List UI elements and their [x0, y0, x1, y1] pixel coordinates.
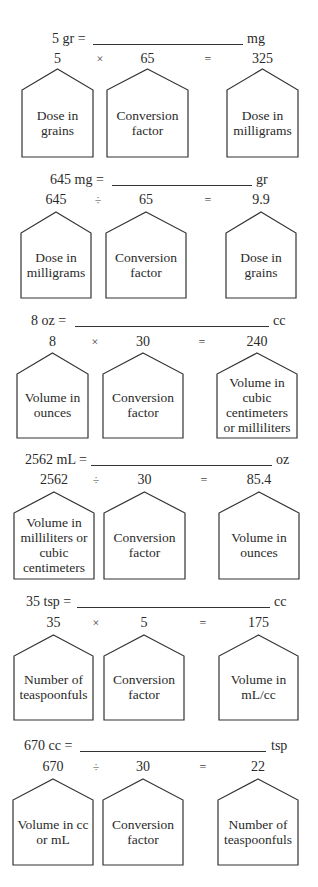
operand-2: 65: [116, 192, 176, 208]
operand-1: 645: [26, 192, 86, 208]
operand-2: 30: [115, 472, 175, 488]
equation-unit: mg: [247, 31, 265, 47]
box-label: Volume in ounces: [19, 376, 86, 434]
operand-2: 30: [113, 759, 173, 775]
equation-unit: cc: [273, 313, 285, 329]
box-label: Volume in cc or mL: [15, 802, 91, 861]
box-label: Conversion factor: [105, 376, 181, 434]
operand-1: 5: [28, 51, 88, 67]
box-label: Number of teaspoonfuls: [220, 802, 296, 861]
result-value: 325: [233, 51, 293, 67]
operand-2: 5: [114, 615, 174, 631]
operator-sign: ÷: [88, 192, 108, 208]
operator-sign: ×: [90, 51, 110, 67]
operator-sign: ×: [86, 615, 106, 631]
box-label: Number of teaspoonfuls: [16, 658, 91, 716]
result-value: 240: [227, 334, 287, 350]
equation-prefix: 35 tsp =: [26, 594, 71, 610]
operand-1: 670: [23, 759, 83, 775]
box-label: Volume in ounces: [221, 515, 297, 575]
equals-sign: =: [194, 472, 214, 488]
equation-unit: oz: [276, 452, 289, 468]
equation-unit: gr: [256, 172, 268, 188]
equation-prefix: 8 oz =: [31, 313, 66, 329]
equation-unit: tsp: [271, 738, 287, 754]
equation-prefix: 2562 mL =: [25, 452, 87, 468]
result-value: 175: [229, 615, 289, 631]
box-label: Dose in milligrams: [229, 92, 296, 153]
answer-blank-line[interactable]: [80, 751, 266, 752]
operand-1: 2562: [24, 472, 84, 488]
answer-blank-line[interactable]: [112, 185, 252, 186]
equation-unit: cc: [274, 594, 286, 610]
equals-sign: =: [192, 334, 212, 350]
box-label: Dose in grains: [24, 92, 91, 153]
operand-2: 65: [118, 51, 178, 67]
box-label: Dose in milligrams: [23, 235, 89, 294]
answer-blank-line[interactable]: [93, 44, 243, 45]
operand-2: 30: [113, 334, 173, 350]
answer-blank-line[interactable]: [77, 607, 270, 608]
equals-sign: =: [193, 759, 213, 775]
box-label: Dose in grains: [228, 235, 294, 294]
operand-1: 8: [23, 334, 83, 350]
box-label: Conversion factor: [106, 515, 183, 575]
box-label: Conversion factor: [109, 92, 186, 153]
box-label: Conversion factor: [106, 658, 182, 716]
result-value: 9.9: [231, 192, 291, 208]
box-label: Volume in mL/cc: [221, 658, 296, 716]
box-label: Conversion factor: [108, 235, 184, 294]
operand-1: 35: [24, 615, 84, 631]
box-label: Volume in cubic centimeters or millilite…: [219, 376, 295, 434]
equals-sign: =: [193, 615, 213, 631]
equation-prefix: 645 mg =: [50, 172, 104, 188]
equals-sign: =: [198, 192, 218, 208]
answer-blank-line[interactable]: [91, 465, 272, 466]
box-label: Volume in milliliters or cubic centimete…: [16, 515, 92, 575]
operator-sign: ÷: [86, 759, 106, 775]
equals-sign: =: [198, 51, 218, 67]
equation-prefix: 670 cc =: [24, 738, 72, 754]
answer-blank-line[interactable]: [75, 326, 269, 327]
equation-prefix: 5 gr =: [52, 31, 86, 47]
result-value: 22: [228, 759, 288, 775]
box-label: Conversion factor: [105, 802, 181, 861]
operator-sign: ×: [85, 334, 105, 350]
result-value: 85.4: [229, 472, 289, 488]
operator-sign: ÷: [86, 472, 106, 488]
